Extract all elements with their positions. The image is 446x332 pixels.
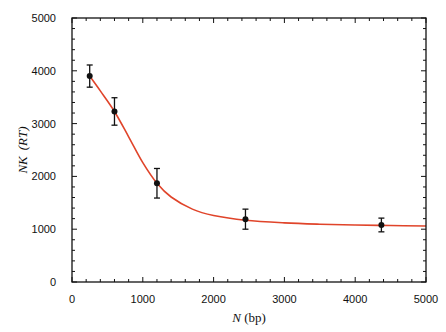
y-axis-title: NK(RT) [15, 126, 30, 174]
y-axis-title-unit: (RT) [15, 126, 30, 150]
y-tick-labels: 010002000300040005000 [32, 12, 56, 288]
y-tick-label: 3000 [32, 118, 56, 130]
data-point [378, 218, 384, 232]
data-points [87, 65, 385, 232]
marker [111, 108, 117, 114]
x-tick-label: 1000 [131, 293, 155, 305]
x-tick-labels: 010002000300040005000 [69, 293, 438, 305]
data-point [111, 98, 117, 125]
y-tick-label: 5000 [32, 12, 56, 24]
marker [242, 216, 248, 222]
x-tick-label: 3000 [272, 293, 296, 305]
data-point [154, 168, 160, 198]
plot-frame [72, 18, 426, 282]
x-tick-label: 0 [69, 293, 75, 305]
chart: 010002000300040005000 010002000300040005… [0, 0, 446, 332]
axis-ticks [72, 18, 426, 282]
y-axis-title-var: NK [15, 155, 30, 175]
x-axis-title-unit: (bp) [241, 310, 266, 325]
marker [154, 180, 160, 186]
marker [87, 73, 93, 79]
y-tick-label: 4000 [32, 65, 56, 77]
x-tick-label: 5000 [414, 293, 438, 305]
data-point [242, 209, 248, 229]
x-tick-label: 4000 [343, 293, 367, 305]
y-tick-label: 2000 [32, 170, 56, 182]
x-axis-title: N (bp) [231, 310, 266, 325]
y-tick-label: 0 [50, 276, 56, 288]
x-tick-label: 2000 [201, 293, 225, 305]
fit-curve [90, 76, 426, 226]
y-tick-label: 1000 [32, 223, 56, 235]
data-point [87, 65, 93, 87]
marker [378, 222, 384, 228]
